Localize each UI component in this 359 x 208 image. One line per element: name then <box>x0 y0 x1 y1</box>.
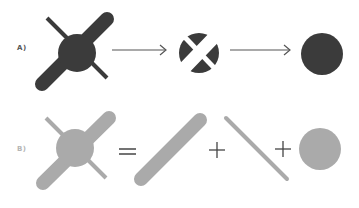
circle-icon <box>58 34 96 72</box>
row-a-composite-shape <box>42 18 107 84</box>
plus-sign-icon <box>209 142 225 158</box>
arrow-right-icon <box>112 45 166 55</box>
plain-circle-icon <box>301 33 343 75</box>
equals-sign-icon <box>119 149 136 154</box>
row-b-label: B) <box>17 145 27 153</box>
plain-circle-icon <box>299 128 341 170</box>
circle-with-cutouts-icon <box>179 33 219 73</box>
thick-bar-icon <box>141 120 200 179</box>
plus-sign-icon <box>275 141 291 157</box>
circle-icon <box>56 129 94 167</box>
row-a-label: A) <box>17 44 27 52</box>
row-b-composite-shape <box>43 118 109 183</box>
diagram-canvas <box>0 0 359 208</box>
arrow-right-icon <box>230 45 290 55</box>
